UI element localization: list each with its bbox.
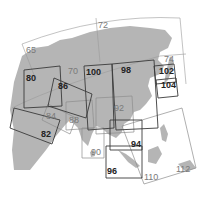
label-94: 94 bbox=[131, 139, 141, 149]
label-82: 82 bbox=[41, 129, 51, 139]
label-110: 110 bbox=[144, 172, 158, 182]
label-112: 112 bbox=[176, 164, 190, 174]
landmass-borneo bbox=[148, 146, 162, 164]
label-88: 88 bbox=[69, 115, 79, 125]
land-layer bbox=[10, 26, 196, 172]
label-70: 70 bbox=[68, 66, 78, 76]
label-84: 84 bbox=[46, 111, 56, 121]
label-100: 100 bbox=[86, 67, 101, 77]
label-90: 90 bbox=[91, 147, 101, 157]
label-96: 96 bbox=[107, 166, 117, 176]
label-74: 74 bbox=[164, 54, 174, 64]
label-98: 98 bbox=[121, 65, 131, 75]
label-86: 86 bbox=[58, 81, 68, 91]
label-80: 80 bbox=[26, 73, 36, 83]
label-72: 72 bbox=[98, 20, 108, 30]
label-102: 102 bbox=[159, 66, 174, 76]
label-104: 104 bbox=[161, 80, 176, 90]
landmass-philippines bbox=[160, 124, 168, 142]
index-map: 65 70 72 74 80 82 84 86 88 90 92 94 96 9… bbox=[0, 0, 207, 204]
label-92: 92 bbox=[114, 103, 124, 113]
label-65: 65 bbox=[26, 45, 36, 55]
